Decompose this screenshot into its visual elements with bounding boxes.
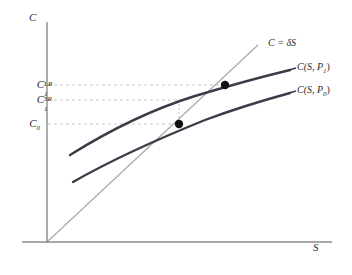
tick-label-c0-base: C [29, 117, 36, 129]
y-axis-label: C [29, 12, 36, 23]
curve-label-p1: C(S, P1) [297, 62, 330, 75]
tick-label-c1-sr-sup: SR [44, 96, 52, 103]
curve-label-p1-close: ) [327, 61, 330, 72]
cost-curve-p0 [73, 93, 290, 182]
tick-label-c0-sub: 0 [37, 124, 41, 132]
tick-label-c1-lr-base: C [37, 78, 44, 90]
tick-label-c1-lr-sup: LR [44, 81, 52, 88]
tick-label-c1-sr: CSR1 [8, 94, 44, 105]
x-axis-label: S [313, 242, 319, 253]
leader-line-p1 [289, 68, 296, 70]
point-short-run-equilibrium [175, 120, 183, 128]
tick-label-c1-lr: CLR1 [8, 79, 44, 90]
diagram-canvas [0, 0, 352, 275]
ray-label: C = δS [268, 38, 296, 48]
leader-line-p0 [289, 91, 296, 93]
capital-cost-diagram: C S CLR1 CSR1 C0 C = δS C(S, P1) C(S, P0… [0, 0, 352, 275]
curve-label-p1-base: C(S, P [297, 61, 323, 72]
tick-label-c0: C0 [8, 118, 40, 132]
curve-label-p0-close: ) [327, 84, 330, 95]
tick-label-c1-sr-sub: 1 [44, 106, 48, 113]
tick-label-c1-sr-base: C [37, 93, 44, 105]
point-long-run-equilibrium [221, 81, 229, 89]
curve-label-p0-base: C(S, P [297, 84, 323, 95]
curve-label-p0: C(S, P0) [297, 85, 330, 98]
cost-curve-p1 [70, 70, 290, 155]
